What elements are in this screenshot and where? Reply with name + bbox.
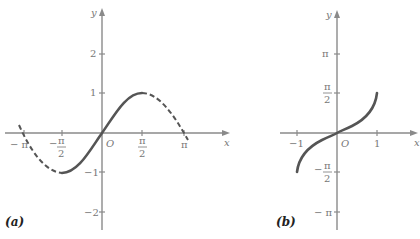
x-axis-label: x bbox=[224, 137, 230, 148]
x-axis-arrow-icon bbox=[222, 130, 230, 136]
tick-y-pi: π bbox=[322, 48, 329, 59]
y-axis-label: y bbox=[325, 9, 332, 20]
tick-half-pi-den: 2 bbox=[139, 148, 145, 159]
tick-neg-half-pi-num: π bbox=[58, 135, 65, 146]
tick-1: 1 bbox=[374, 138, 380, 149]
tick-neg-pi: − π bbox=[10, 139, 29, 150]
tick-neg-half-pi-minus: − bbox=[49, 138, 57, 149]
tick-half-pi-num: π bbox=[139, 135, 146, 146]
tick-y-half-pi-num: π bbox=[324, 81, 331, 92]
y-axis-arrow-icon bbox=[334, 10, 340, 18]
y-axis-arrow-icon bbox=[99, 8, 105, 16]
panel-a: y x O − π − π 2 π 2 π 2 1 −1 −2 (a) bbox=[5, 7, 230, 230]
tick-y-neg1: −1 bbox=[84, 167, 99, 178]
panel-label-b: (b) bbox=[276, 215, 296, 229]
origin-label: O bbox=[341, 138, 349, 149]
panel-label-a: (a) bbox=[5, 215, 24, 229]
x-axis-label: x bbox=[414, 137, 420, 148]
y-axis-label: y bbox=[90, 7, 97, 18]
tick-y-neg-half-pi-minus: − bbox=[314, 164, 322, 175]
tick-y-neg-half-pi-den: 2 bbox=[324, 173, 330, 184]
origin-label: O bbox=[106, 138, 114, 149]
panel-b: y x O −1 1 π π 2 − π 2 − π (b) bbox=[276, 9, 420, 230]
tick-y-2: 2 bbox=[90, 48, 96, 59]
tick-neg-half-pi-den: 2 bbox=[58, 148, 64, 159]
tick-y-neg2: −2 bbox=[84, 207, 99, 218]
tick-neg1: −1 bbox=[289, 138, 304, 149]
tick-y-neg-pi: − π bbox=[314, 207, 333, 218]
tick-y-neg-half-pi-num: π bbox=[324, 160, 331, 171]
figure: y x O − π − π 2 π 2 π 2 1 −1 −2 (a) y x … bbox=[0, 0, 420, 239]
tick-y-1: 1 bbox=[90, 87, 96, 98]
tick-pi: π bbox=[181, 139, 188, 150]
tick-y-half-pi-den: 2 bbox=[324, 94, 330, 105]
x-axis-arrow-icon bbox=[410, 130, 418, 136]
